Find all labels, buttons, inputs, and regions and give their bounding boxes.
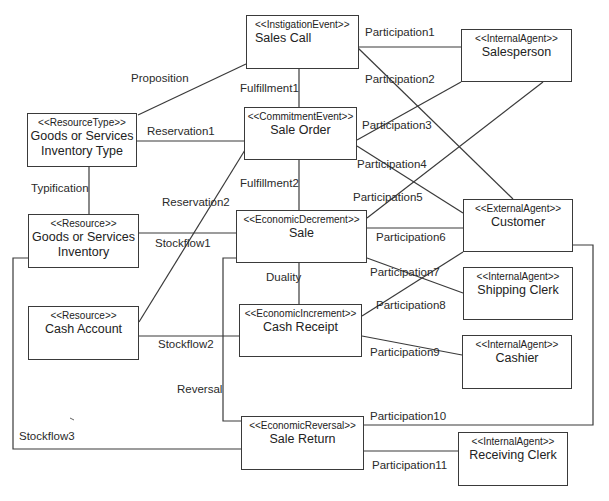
stereotype: <<EconomicReversal>>: [242, 420, 363, 432]
label-stockflow2: Stockflow2: [158, 338, 214, 351]
label-participation10: Participation10: [370, 410, 446, 423]
node-name: Cashier: [463, 351, 571, 366]
stereotype: <<EconomicIncrement>>: [240, 308, 361, 320]
label-reservation1: Reservation1: [147, 125, 215, 138]
label-stockflow1: Stockflow1: [155, 237, 211, 250]
label-duality: Duality: [266, 271, 301, 284]
label-participation8: Participation8: [376, 299, 446, 312]
stereotype: <<InternalAgent>>: [462, 33, 571, 45]
rea-diagram-canvas: <<InstigationEvent>> Sales Call <<Intern…: [0, 0, 609, 501]
stereotype: <<EconomicDecrement>>: [237, 214, 366, 226]
node-goods-inventory-type[interactable]: <<ResourceType>> Goods or Services Inven…: [27, 113, 137, 167]
label-participation5: Participation5: [353, 191, 423, 204]
stereotype: <<ExternalAgent>>: [464, 203, 572, 215]
node-customer[interactable]: <<ExternalAgent>> Customer: [463, 199, 573, 252]
label-participation11: Participation11: [372, 459, 447, 472]
node-salesperson[interactable]: <<InternalAgent>> Salesperson: [461, 29, 572, 82]
node-name: Receiving Clerk: [459, 448, 567, 463]
node-sale[interactable]: <<EconomicDecrement>> Sale: [236, 210, 367, 263]
node-name-line2: Inventory: [29, 245, 138, 260]
node-name: Sale Order: [245, 123, 356, 138]
label-proposition: Proposition: [131, 72, 189, 85]
node-name: Customer: [464, 215, 572, 230]
label-reversal: Reversal: [177, 383, 222, 396]
label-typification: Typification: [31, 182, 89, 195]
label-participation7: Participation7: [370, 266, 440, 279]
label-participation6: Participation6: [376, 231, 446, 244]
label-fulfillment2: Fulfillment2: [240, 177, 299, 190]
label-participation4: Participation4: [357, 158, 427, 171]
node-name: Salesperson: [462, 45, 571, 60]
node-name-line1: Goods or Services: [28, 129, 136, 144]
stereotype: <<CommitmentEvent>>: [245, 111, 356, 123]
stereotype: <<InternalAgent>>: [463, 339, 571, 351]
node-receiving-clerk[interactable]: <<InternalAgent>> Receiving Clerk: [458, 432, 568, 486]
node-name: Sale: [237, 226, 366, 241]
node-cash-receipt[interactable]: <<EconomicIncrement>> Cash Receipt: [239, 304, 362, 357]
node-shipping-clerk[interactable]: <<InternalAgent>> Shipping Clerk: [463, 267, 573, 320]
node-name: Sales Call: [247, 31, 358, 46]
node-name-line2: Inventory Type: [28, 144, 136, 159]
label-reservation2: Reservation2: [162, 196, 230, 209]
stereotype: <<Resource>>: [29, 218, 138, 230]
label-participation3: Participation3: [362, 119, 432, 132]
stereotype: <<Resource>>: [29, 310, 138, 322]
node-name: Cash Account: [29, 322, 138, 337]
node-cash-account[interactable]: <<Resource>> Cash Account: [28, 306, 139, 360]
node-name-line1: Goods or Services: [29, 230, 138, 245]
stereotype: <<InternalAgent>>: [459, 436, 567, 448]
label-stockflow3: Stockflow3: [19, 430, 75, 443]
node-sale-return[interactable]: <<EconomicReversal>> Sale Return: [241, 416, 364, 470]
label-participation9: Participation9: [370, 346, 440, 359]
node-name: Shipping Clerk: [464, 283, 572, 298]
node-cashier[interactable]: <<InternalAgent>> Cashier: [462, 335, 572, 389]
stereotype: <<ResourceType>>: [28, 117, 136, 129]
node-goods-inventory[interactable]: <<Resource>> Goods or Services Inventory: [28, 214, 139, 268]
label-participation1: Participation1: [365, 26, 435, 39]
label-fulfillment1: Fulfillment1: [240, 82, 299, 95]
stereotype: <<InternalAgent>>: [464, 271, 572, 283]
node-name: Sale Return: [242, 432, 363, 447]
stray-mark: [70, 418, 74, 420]
edge-reservation2: [139, 150, 245, 322]
node-name: Cash Receipt: [240, 320, 361, 335]
node-sales-call[interactable]: <<InstigationEvent>> Sales Call: [246, 15, 359, 69]
node-sale-order[interactable]: <<CommitmentEvent>> Sale Order: [244, 107, 357, 160]
stereotype: <<InstigationEvent>>: [247, 19, 358, 31]
label-participation2: Participation2: [365, 73, 435, 86]
